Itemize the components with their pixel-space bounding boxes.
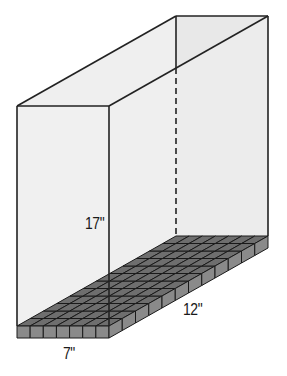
width-label: 7" [63, 344, 75, 364]
prism-diagram [0, 0, 287, 376]
length-label: 12" [183, 300, 202, 320]
height-label: 17" [85, 214, 104, 234]
